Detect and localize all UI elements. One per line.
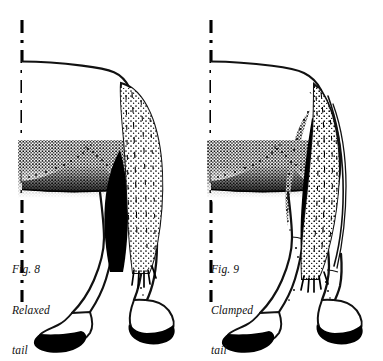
caption-description: Clamped: [211, 304, 253, 318]
caption-figure-number: Fig. 8: [12, 263, 50, 277]
caption-subject: tail: [211, 344, 253, 358]
caption-figure-number: Fig. 9: [211, 263, 253, 277]
figure-caption-clamped: Fig. 9 Clamped tail: [211, 236, 253, 361]
caption-description: Relaxed: [12, 304, 50, 318]
figure-panel-relaxed-tail: Fig. 8 Relaxed tail: [0, 0, 195, 361]
illustration-plate: Fig. 8 Relaxed tail: [0, 0, 383, 361]
figure-panel-clamped-tail: Fig. 9 Clamped tail: [188, 0, 383, 361]
caption-subject: tail: [12, 344, 50, 358]
figure-caption-relaxed: Fig. 8 Relaxed tail: [12, 236, 50, 361]
